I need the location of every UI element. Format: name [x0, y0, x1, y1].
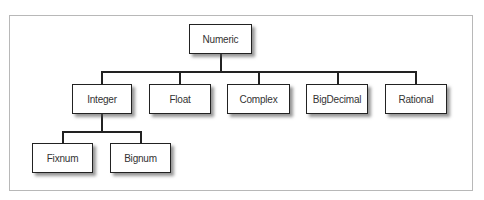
connector-integer-vertical: [101, 113, 103, 132]
connector-bignum: [140, 131, 142, 143]
connector-complex: [258, 71, 260, 84]
node-rational: Rational: [385, 84, 447, 114]
connector-bigdecimal: [337, 71, 339, 84]
connector-root-vertical: [220, 53, 222, 72]
connector-integer: [101, 71, 103, 84]
node-complex: Complex: [227, 84, 290, 114]
connector-fixnum: [62, 131, 64, 143]
node-bignum: Bignum: [110, 143, 171, 173]
node-integer: Integer: [72, 84, 132, 114]
connector-level2-horizontal: [62, 131, 141, 133]
node-float: Float: [149, 84, 211, 114]
node-numeric: Numeric: [189, 24, 252, 54]
node-bigdecimal: BigDecimal: [306, 84, 368, 114]
connector-rational: [415, 71, 417, 84]
node-fixnum: Fixnum: [32, 143, 93, 173]
connector-float: [179, 71, 181, 84]
